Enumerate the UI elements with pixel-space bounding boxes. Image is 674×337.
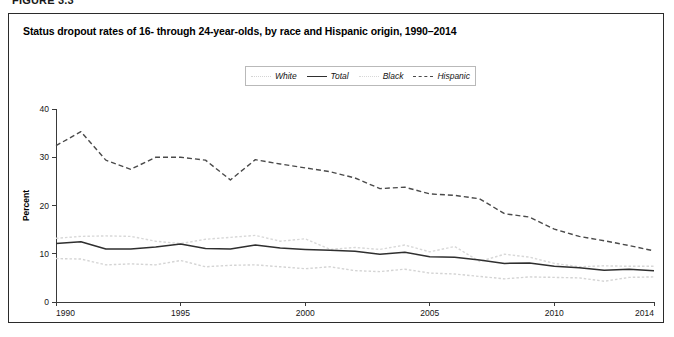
- series-line-white: [56, 259, 654, 282]
- x-axis-tick-label: 1995: [171, 308, 190, 318]
- figure-box: Status dropout rates of 16- through 24-y…: [8, 13, 664, 323]
- x-axis-tick-label: 1990: [56, 308, 75, 318]
- y-axis-tick-label: 30: [40, 152, 50, 162]
- y-axis-title: Percent: [21, 190, 31, 221]
- x-axis-tick-label: 2010: [545, 308, 564, 318]
- x-axis-tick-label: 2005: [420, 308, 439, 318]
- y-axis-tick-label: 20: [40, 201, 50, 211]
- y-axis-tick-label: 0: [44, 297, 49, 307]
- plot-area: 010203040199019952000200520102014YearPer…: [9, 14, 665, 324]
- x-axis-tick-label: 2000: [296, 308, 315, 318]
- y-axis-tick-label: 10: [40, 249, 50, 259]
- figure-page: FIGURE 3.3 Status dropout rates of 16- t…: [0, 0, 674, 337]
- x-axis-tick-label: 2014: [635, 308, 654, 318]
- series-line-total: [56, 242, 654, 271]
- series-line-hispanic: [56, 132, 654, 251]
- y-axis-tick-label: 40: [40, 104, 50, 114]
- line-chart: 010203040199019952000200520102014YearPer…: [9, 14, 665, 324]
- figure-number-label: FIGURE 3.3: [12, 0, 74, 6]
